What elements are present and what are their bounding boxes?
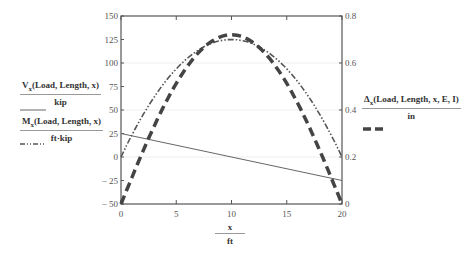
y-left-tick-label: 150 [105,11,119,21]
y-right-tick-label: 0.4 [345,105,357,115]
y-left-tick-label: 25 [109,129,119,139]
series-line-2 [121,35,342,204]
y-left-tick-label: 125 [105,35,119,45]
y-right-tick-label: 0.8 [345,11,357,21]
y-left-tick-label: 75 [109,82,119,92]
x-axis-label: x ft [215,222,245,246]
y-left-tick-label: 0 [114,152,119,162]
y-left-tick-label: 100 [105,58,119,68]
series-line-1 [121,40,342,158]
legend-shear: Vx(Load, Length, x) kip [20,80,101,107]
x-tick-label: 15 [282,209,292,219]
y-left-tick-label: 50 [109,105,119,115]
y-left-tick-label: − 50 [102,199,119,209]
x-tick-label: 0 [119,209,124,219]
legend-deflection: Δx(Load, Length, x, E, I) in [362,94,461,121]
legend-swatch-shear [20,108,50,112]
legend-swatch-deflection [363,126,393,132]
legend-swatch-moment [20,142,50,146]
x-tick-label: 10 [227,209,237,219]
y-right-tick-label: 0 [345,199,350,209]
y-right-tick-label: 0.2 [345,152,356,162]
y-left-tick-label: − 25 [102,176,119,186]
legend-moment: Mx(Load, Length, x) ft·kip [20,116,103,143]
y-right-tick-label: 0.6 [345,58,357,68]
x-tick-label: 5 [174,209,179,219]
x-tick-label: 20 [338,209,348,219]
